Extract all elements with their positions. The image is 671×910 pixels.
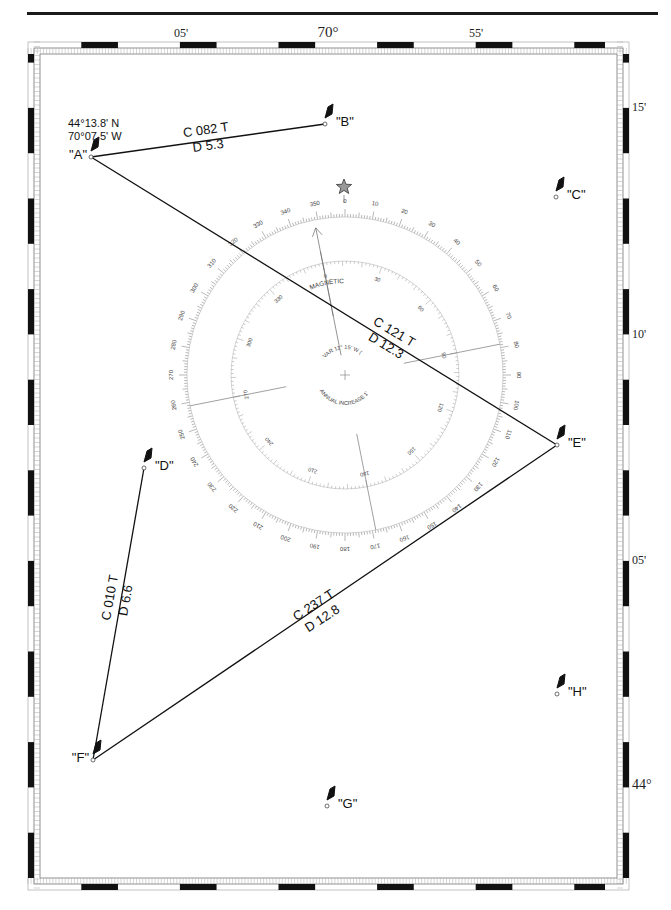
leg-label: C 121 TD 12.3	[363, 313, 418, 363]
outer-bearing-label: 200	[279, 534, 291, 543]
outer-bearing-label: 70	[505, 311, 513, 320]
outer-bearing-label: 120	[490, 456, 501, 468]
outer-bearing-label: 350	[309, 200, 321, 208]
chart-border-scale	[28, 42, 629, 890]
buoy-position-icon	[325, 804, 329, 808]
buoy-position-icon	[555, 692, 559, 696]
outer-bearing-label: 110	[504, 429, 513, 441]
inner-bearing-label: 210	[307, 466, 318, 475]
latitude-labels: 15'10'05'44°	[632, 100, 652, 792]
outer-bearing-label: 220	[227, 502, 239, 513]
waypoint-label: "E"	[568, 435, 586, 450]
buoy-icon	[557, 425, 565, 439]
compass-rose: 0102030405060708090100110120130140150160…	[0, 0, 522, 552]
waypoint-label: "A"	[69, 147, 87, 162]
latitude-label: 15'	[632, 100, 646, 114]
longitude-labels: 05'70°55'	[174, 24, 483, 40]
longitude-label: 55'	[469, 26, 483, 40]
waypoint-label: "F"	[72, 750, 90, 765]
waypoint-G: "G"	[325, 786, 358, 811]
inner-bearing-label: 300	[245, 337, 254, 348]
outer-bearing-label: 190	[309, 542, 321, 550]
course-line-A-E	[91, 157, 557, 445]
outer-bearing-label: 30	[428, 220, 437, 229]
buoy-position-icon	[142, 466, 146, 470]
outer-bearing-label: 100	[512, 400, 520, 412]
longitude-label: 70°	[318, 24, 339, 40]
waypoint-label: "G"	[338, 796, 358, 811]
longitude-label: 05'	[174, 26, 188, 40]
inner-bearing-label: 330	[273, 294, 284, 305]
position-note: 44°13.8' N 70°07.5' W	[68, 117, 122, 142]
waypoint-H: "H"	[555, 674, 587, 699]
outer-bearing-label: 50	[474, 259, 483, 268]
outer-bearing-label: 330	[252, 219, 264, 230]
outer-bearing-label: 80	[513, 341, 520, 349]
buoy-icon	[556, 177, 564, 191]
buoy-position-icon	[554, 195, 558, 199]
waypoint-label: "H"	[568, 684, 587, 699]
buoy-position-icon	[323, 122, 327, 126]
outer-bearing-label: 10	[371, 200, 379, 207]
outer-bearing-label: 160	[398, 534, 410, 543]
outer-bearing-label: 280	[170, 339, 178, 351]
outer-bearing-label: 310	[206, 257, 217, 269]
position-lat: 44°13.8' N	[68, 117, 119, 129]
buoy-icon	[93, 740, 101, 754]
buoy-position-icon	[555, 443, 559, 447]
waypoint-label: "D"	[155, 458, 174, 473]
outer-bearing-label: 130	[472, 481, 483, 493]
inner-bearing-label: 240	[264, 436, 275, 447]
outer-bearing-label: 170	[369, 543, 381, 551]
outer-bearing-label: 40	[452, 237, 461, 246]
waypoint-D: "D"	[142, 448, 174, 473]
position-lon: 70°07.5' W	[68, 130, 122, 142]
buoy-icon	[144, 448, 152, 462]
buoy-position-icon	[89, 155, 93, 159]
outer-bearing-label: 20	[400, 208, 409, 216]
outer-bearing-label: 180	[339, 546, 350, 552]
buoy-icon	[327, 786, 335, 800]
waypoint-label: "B"	[336, 114, 354, 129]
inner-bearing-label: 60	[417, 304, 426, 313]
outer-bearing-label: 210	[252, 520, 264, 531]
buoy-position-icon	[91, 758, 95, 762]
buoy-icon	[325, 104, 333, 118]
waypoints: "A""B""C""D""E""F""G""H"	[69, 104, 587, 811]
course-lines: C 082 TD 5.3C 121 TD 12.3C 237 TD 12.8C …	[91, 119, 557, 760]
buoy-icon	[557, 674, 565, 688]
waypoint-B: "B"	[323, 104, 354, 129]
inner-bearing-label: 30	[374, 276, 382, 284]
magnetic-label: MAGNETIC	[308, 277, 344, 291]
latitude-label: 05'	[632, 553, 646, 567]
outer-bearing-label: 270	[168, 369, 174, 380]
distance-label: D 5.3	[192, 136, 225, 155]
leg-label: C 082 TD 5.3	[182, 119, 232, 156]
outer-bearing-label: 260	[170, 399, 178, 411]
true-north-star-icon	[336, 179, 351, 193]
outer-bearing-label: 340	[280, 207, 292, 216]
nautical-chart: 05'70°55' 15'10'05'44° 01020304050607080…	[0, 0, 671, 910]
waypoint-E: "E"	[555, 425, 586, 450]
outer-bearing-label: 290	[177, 309, 186, 321]
inner-bearing-label: 150	[406, 446, 417, 457]
outer-bearing-label: 240	[189, 456, 200, 468]
inner-bearing-label: 120	[436, 402, 445, 413]
waypoint-C: "C"	[554, 177, 586, 202]
annual-increase-label: ANNUAL INCREASE 1'	[319, 388, 370, 406]
outer-bearing-label: 60	[491, 284, 500, 293]
latitude-label: 10'	[632, 327, 646, 341]
outer-bearing-label: 250	[177, 428, 186, 440]
outer-bearing-label: 230	[206, 481, 217, 493]
outer-bearing-label: 300	[189, 282, 200, 294]
latitude-label: 44°	[632, 777, 652, 792]
outer-bearing-label: 90	[516, 372, 522, 379]
waypoint-F: "F"	[72, 740, 101, 765]
waypoint-label: "C"	[567, 187, 586, 202]
